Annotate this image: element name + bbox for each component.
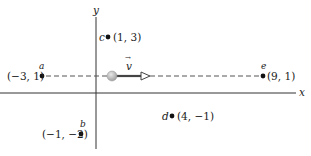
point-a-coords: (−3, 1) [7, 71, 44, 82]
point-b-coords: (−1, −2) [42, 129, 88, 140]
point-d-coords: (4, −1) [177, 111, 214, 122]
point-c [106, 35, 111, 40]
x-axis-label: x [299, 87, 305, 98]
point-e [261, 74, 266, 79]
point-c-name: c [99, 32, 105, 43]
velocity-vector-arrowhead-icon [141, 72, 150, 80]
point-e-coords: (9, 1) [267, 71, 295, 82]
y-axis-label: y [93, 5, 99, 16]
point-e-name: e [261, 62, 266, 71]
particle-ball [107, 71, 117, 81]
point-d-name: d [162, 111, 169, 122]
point-d [170, 114, 175, 119]
point-c-coords: (1, 3) [113, 32, 141, 43]
vector-label: v [126, 61, 132, 72]
